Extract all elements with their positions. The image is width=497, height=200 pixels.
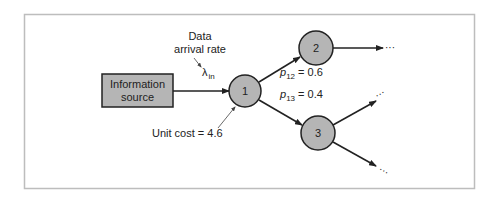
continuation-2: ··· xyxy=(385,42,395,53)
source-label-line1: Information xyxy=(110,78,165,90)
node-2: 2 xyxy=(299,31,333,65)
edge-3-out-up xyxy=(333,101,376,125)
node-3: 3 xyxy=(301,116,335,150)
lambda-in: λin xyxy=(202,66,215,81)
prob-p13: p13= 0.4 xyxy=(279,88,323,103)
prob-p12: p12= 0.6 xyxy=(279,66,323,81)
unit-cost-label: Unit cost = 4.6 xyxy=(152,127,223,139)
svg-text:2: 2 xyxy=(313,42,319,54)
arrival-label-line1: Data xyxy=(188,30,212,42)
arrival-label-line2: arrival rate xyxy=(174,43,226,55)
edge-3-out-down xyxy=(333,142,376,166)
svg-text:3: 3 xyxy=(315,127,321,139)
network-diagram: Information source Data arrival rate λin… xyxy=(0,0,497,200)
edge-1-to-3 xyxy=(259,100,302,125)
information-source-box: Information source xyxy=(102,74,173,107)
continuation-3-up: ··· xyxy=(373,86,387,100)
source-label-line2: source xyxy=(121,91,154,103)
unit-cost-pointer xyxy=(218,107,235,128)
svg-text:1: 1 xyxy=(242,85,248,97)
node-1: 1 xyxy=(229,75,261,107)
continuation-3-down: ··· xyxy=(377,163,391,177)
arrival-pointer xyxy=(194,58,201,67)
